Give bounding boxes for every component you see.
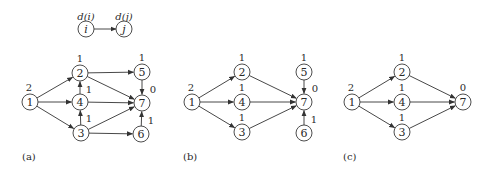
- distance-label: 1: [139, 52, 145, 63]
- node-7: 70: [455, 82, 471, 111]
- distance-label: 1: [239, 52, 245, 63]
- distance-label: 0: [150, 84, 156, 95]
- node-label: 5: [139, 66, 146, 79]
- edge-3-to-6: [89, 133, 133, 134]
- graph-c: 1221413170(c): [343, 52, 471, 162]
- node-6: 61: [296, 114, 317, 142]
- edge-1-to-2: [359, 76, 395, 98]
- distance-label: 1: [77, 53, 83, 64]
- node-7: 70: [296, 83, 318, 111]
- node-6: 61: [133, 115, 154, 143]
- distance-label: 1: [239, 112, 245, 123]
- edge-2-to-7: [249, 75, 296, 98]
- edge-1-to-3: [37, 106, 74, 128]
- edge-1-to-2: [199, 76, 235, 98]
- legend-node-i-label: i: [84, 23, 88, 36]
- node-label: 1: [189, 96, 196, 109]
- distance-label: 2: [348, 82, 354, 93]
- node-4: 41: [234, 82, 250, 111]
- panel-label-c: (c): [343, 151, 357, 162]
- node-1: 12: [184, 82, 200, 111]
- node-label: 3: [399, 126, 406, 139]
- node-label: 6: [138, 128, 145, 141]
- edge-3-to-7: [409, 106, 455, 129]
- distance-label: 1: [239, 82, 245, 93]
- node-7: 70: [134, 84, 156, 112]
- node-1: 12: [344, 82, 360, 111]
- panel-label-b: (b): [183, 151, 197, 162]
- legend: d(i) d(j) i j: [77, 11, 132, 38]
- node-label: 2: [239, 66, 246, 79]
- node-4: 41: [72, 84, 92, 111]
- distance-label: 1: [311, 114, 317, 125]
- edge-1-to-2: [37, 77, 73, 98]
- edge-4-to-7: [88, 102, 134, 103]
- edge-1-to-3: [359, 106, 395, 128]
- node-label: 4: [77, 96, 84, 109]
- node-label: 5: [301, 66, 308, 79]
- node-5: 51: [134, 52, 150, 81]
- distance-label: 0: [312, 83, 318, 94]
- distance-label: 0: [460, 82, 466, 93]
- node-4: 41: [394, 82, 410, 111]
- node-label: 1: [349, 96, 356, 109]
- node-2: 21: [234, 52, 250, 81]
- distance-label: 1: [399, 52, 405, 63]
- node-label: 7: [460, 96, 467, 109]
- node-label: 4: [239, 96, 246, 109]
- distance-label: 1: [399, 82, 405, 93]
- distance-label: 1: [86, 113, 92, 124]
- node-2: 21: [72, 53, 88, 82]
- node-3: 31: [394, 112, 410, 141]
- edge-2-to-7: [87, 76, 134, 99]
- node-5: 51: [296, 52, 312, 81]
- node-label: 1: [27, 96, 34, 109]
- edge-3-to-7: [88, 107, 134, 130]
- distance-label: 1: [301, 52, 307, 63]
- node-label: 6: [301, 127, 308, 140]
- node-label: 7: [301, 96, 308, 109]
- legend-to-dist: d(j): [115, 11, 132, 22]
- node-label: 4: [399, 96, 406, 109]
- node-2: 21: [394, 52, 410, 81]
- edge-2-to-5: [88, 72, 134, 73]
- distance-label: 2: [26, 82, 32, 93]
- distance-label: 2: [188, 82, 194, 93]
- node-3: 31: [73, 113, 92, 142]
- edge-2-to-7: [409, 76, 455, 99]
- graph-b: 12214131517061(b): [183, 52, 318, 162]
- distance-label: 1: [399, 112, 405, 123]
- distance-label: 1: [86, 84, 92, 95]
- node-1: 12: [22, 82, 38, 111]
- legend-from-dist: d(i): [77, 11, 95, 22]
- distance-label: 1: [148, 115, 154, 126]
- node-label: 7: [139, 97, 146, 110]
- node-label: 2: [399, 66, 406, 79]
- panel-label-a: (a): [22, 151, 36, 162]
- node-label: 2: [77, 67, 84, 80]
- edge-3-to-7: [249, 106, 296, 129]
- shortest-path-diagram: d(i) d(j) i j 12214131517061(a) 12214131…: [0, 0, 493, 170]
- graph-a: 12214131517061(a): [22, 52, 156, 162]
- edge-1-to-3: [199, 106, 235, 128]
- node-3: 31: [234, 112, 250, 141]
- node-label: 3: [78, 127, 85, 140]
- node-label: 3: [239, 126, 246, 139]
